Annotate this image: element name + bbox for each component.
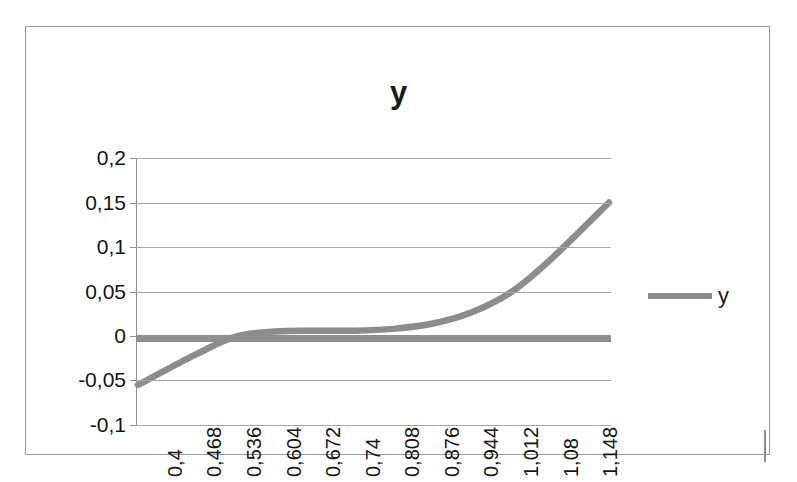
x-axis-tick-label: 0,808 — [402, 427, 422, 477]
y-axis-tick-label: 0 — [30, 325, 126, 346]
y-tick-mark — [130, 425, 136, 426]
x-axis-tick-label: 0,876 — [442, 427, 462, 477]
y-tick-mark — [130, 203, 136, 204]
y-tick-mark — [130, 158, 136, 159]
gridline — [136, 203, 611, 204]
y-tick-mark — [130, 336, 136, 337]
x-axis-tick-label: 1,012 — [521, 427, 541, 477]
x-axis-tick-label: 0,672 — [323, 427, 343, 477]
gridline — [136, 425, 611, 426]
x-axis-tick-label: 0,944 — [481, 427, 501, 477]
y-tick-mark — [130, 292, 136, 293]
chart-frame: y 0,20,150,10,050-0,05-0,1 y 0,40,4680,5… — [25, 26, 770, 455]
y-tick-mark — [130, 380, 136, 381]
chart-legend: y — [646, 282, 756, 312]
gridline — [136, 380, 611, 381]
x-axis-tick-label: 0,74 — [363, 438, 383, 477]
gridline — [136, 247, 611, 248]
chart-title: y — [26, 75, 771, 111]
zero-axis-band — [136, 335, 611, 342]
x-axis-tick-label: 0,468 — [204, 427, 224, 477]
gridline — [136, 158, 611, 159]
x-axis-tick-label: 0,604 — [284, 427, 304, 477]
series-path-y — [138, 203, 609, 385]
y-axis-tick-label: -0,05 — [30, 369, 126, 390]
legend-swatch-y — [648, 293, 712, 299]
gridline — [136, 292, 611, 293]
x-axis-tick-label: 1,08 — [561, 438, 581, 477]
x-axis-tick-label: 1,148 — [600, 427, 620, 477]
y-tick-mark — [130, 247, 136, 248]
y-axis-tick-label: 0,05 — [30, 281, 126, 302]
y-axis-tick-label: 0,2 — [30, 147, 126, 168]
x-axis-tick-label: 0,536 — [244, 427, 264, 477]
y-axis-labels: 0,20,150,10,050-0,05-0,1 — [26, 27, 126, 456]
y-axis-tick-label: 0,1 — [30, 236, 126, 257]
legend-label-y: y — [718, 282, 729, 310]
plot-area — [136, 158, 611, 425]
y-axis-tick-label: 0,15 — [30, 192, 126, 213]
x-axis-tick-label: 0,4 — [165, 449, 185, 477]
scan-edge-mark — [764, 430, 766, 462]
y-axis-tick-label: -0,1 — [30, 414, 126, 435]
